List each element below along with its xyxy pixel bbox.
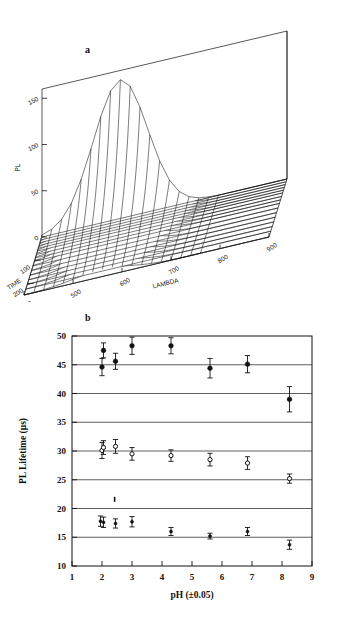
svg-text:8: 8 — [280, 572, 285, 582]
svg-text:15: 15 — [57, 532, 67, 542]
svg-text:500: 500 — [69, 287, 82, 299]
svg-text:0: 0 — [33, 233, 40, 241]
svg-text:100: 100 — [27, 141, 40, 152]
svg-text:LAMBDA: LAMBDA — [152, 276, 180, 289]
panel-b-scatter: b 101520253035404550123456789pH (±0.05)P… — [0, 308, 357, 620]
svg-text:2: 2 — [100, 572, 105, 582]
svg-text:50: 50 — [57, 331, 67, 341]
svg-text:20: 20 — [57, 504, 67, 514]
svg-text:1: 1 — [70, 572, 75, 582]
svg-text:35: 35 — [57, 417, 67, 427]
figure-root: a 050100150PL400500600700800900LAMBDA100… — [0, 0, 357, 620]
svg-text:10: 10 — [57, 561, 67, 571]
svg-text:25: 25 — [57, 475, 67, 485]
svg-text:3: 3 — [130, 572, 135, 582]
svg-text:40: 40 — [57, 389, 67, 399]
panel-a-3d-surface: a 050100150PL400500600700800900LAMBDA100… — [0, 22, 357, 302]
series-2 — [98, 516, 292, 549]
panel-a-label: a — [85, 44, 90, 55]
series-0 — [99, 337, 292, 412]
svg-text:4: 4 — [160, 572, 165, 582]
svg-text:7: 7 — [250, 572, 255, 582]
svg-text:9: 9 — [310, 572, 315, 582]
svg-text:900: 900 — [265, 241, 278, 253]
svg-text:pH (±0.05): pH (±0.05) — [170, 590, 213, 601]
svg-text:150: 150 — [27, 95, 40, 106]
svg-text:50: 50 — [30, 187, 40, 197]
panel-b-label: b — [85, 312, 91, 323]
svg-text:PL Lifetime (μs): PL Lifetime (μs) — [18, 418, 29, 484]
surface-plot-svg: 050100150PL400500600700800900LAMBDA10020… — [0, 22, 357, 302]
svg-text:700: 700 — [167, 264, 180, 276]
svg-text:800: 800 — [216, 253, 229, 265]
svg-text:PL: PL — [14, 163, 21, 171]
scatter-plot-svg: 101520253035404550123456789pH (±0.05)PL … — [0, 308, 357, 620]
svg-text:45: 45 — [57, 360, 67, 370]
svg-text:6: 6 — [220, 572, 225, 582]
svg-text:400: 400 — [20, 299, 33, 302]
svg-text:100: 100 — [19, 263, 32, 275]
svg-text:5: 5 — [190, 572, 195, 582]
svg-text:600: 600 — [118, 276, 131, 288]
svg-text:30: 30 — [57, 446, 67, 456]
series-1 — [99, 440, 292, 484]
